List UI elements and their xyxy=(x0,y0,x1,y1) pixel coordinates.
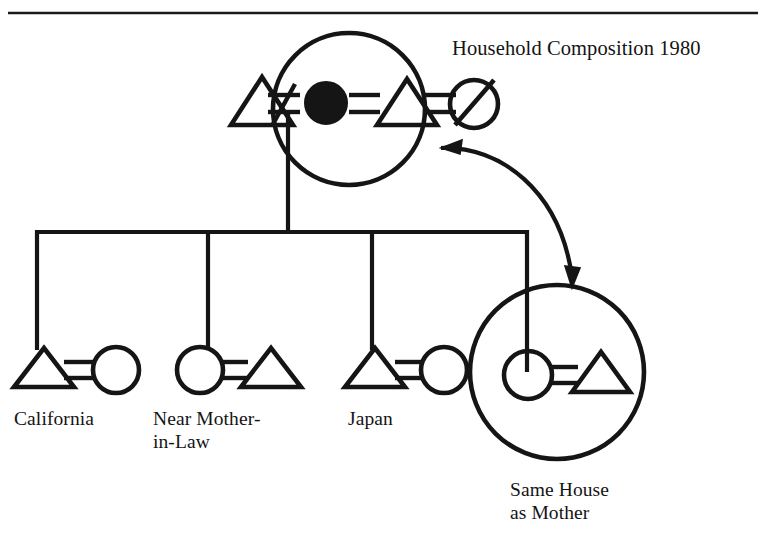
child-3-circle-female xyxy=(421,347,467,393)
child-1-circle-female xyxy=(93,347,139,393)
child-4-triangle-male xyxy=(572,352,630,392)
child-2-label-line-1: Near Mother- xyxy=(153,408,260,429)
top-household-ellipse xyxy=(273,33,425,185)
top-member-2-triangle-male xyxy=(377,79,437,125)
top-member-3-slashed-circle-deceased-female xyxy=(450,80,498,128)
child-2-label-line-2: in-Law xyxy=(153,431,210,452)
child-1-label-california: California xyxy=(14,407,94,430)
child-3-label-japan: Japan xyxy=(348,407,393,430)
page-title: Household Composition 1980 xyxy=(452,36,701,60)
child-4-label-line-1: Same House xyxy=(510,479,609,500)
child-1-union-equals xyxy=(64,362,95,378)
union-2-equals-marriage xyxy=(349,95,380,112)
child-2-label-near-mother-in-law: Near Mother-in-Law xyxy=(153,407,260,453)
child-2-union-equals xyxy=(223,362,248,378)
kinship-diagram-canvas xyxy=(0,0,766,548)
same-house-double-arrow xyxy=(441,140,580,288)
kinship-diagram-page: ng Japan xyxy=(0,0,766,548)
child-3-triangle-male xyxy=(345,348,405,387)
child-4-label-line-2: as Mother xyxy=(510,502,589,523)
child-1-triangle-male xyxy=(14,348,74,387)
top-member-ego-filled-circle-female xyxy=(305,82,347,124)
child-4-label-same-house-as-mother: Same Houseas Mother xyxy=(510,478,609,524)
child-2-triangle-male xyxy=(241,348,301,387)
child-4-union-equals xyxy=(552,367,578,383)
child-2-circle-female xyxy=(177,347,223,393)
